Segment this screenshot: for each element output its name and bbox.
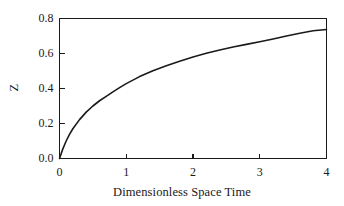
y-tick-label: 0.2 xyxy=(24,116,54,131)
x-tick-label: 2 xyxy=(183,165,203,180)
y-axis-label: Z xyxy=(7,78,22,98)
y-tick-label: 0.4 xyxy=(24,81,54,96)
chart-figure: 0.00.20.40.60.8 01234 Z Dimensionless Sp… xyxy=(0,0,344,206)
y-tick-label: 0.8 xyxy=(24,11,54,26)
x-tick-label: 1 xyxy=(116,165,136,180)
x-tick-label: 4 xyxy=(317,165,337,180)
x-tick-label: 0 xyxy=(50,165,70,180)
x-tick-label: 3 xyxy=(250,165,270,180)
y-tick-label: 0.6 xyxy=(24,46,54,61)
x-axis-label-text: Dimensionless Space Time xyxy=(113,185,251,200)
x-axis-label: Dimensionless Space Time xyxy=(0,185,344,200)
y-tick-label: 0.0 xyxy=(24,151,54,166)
